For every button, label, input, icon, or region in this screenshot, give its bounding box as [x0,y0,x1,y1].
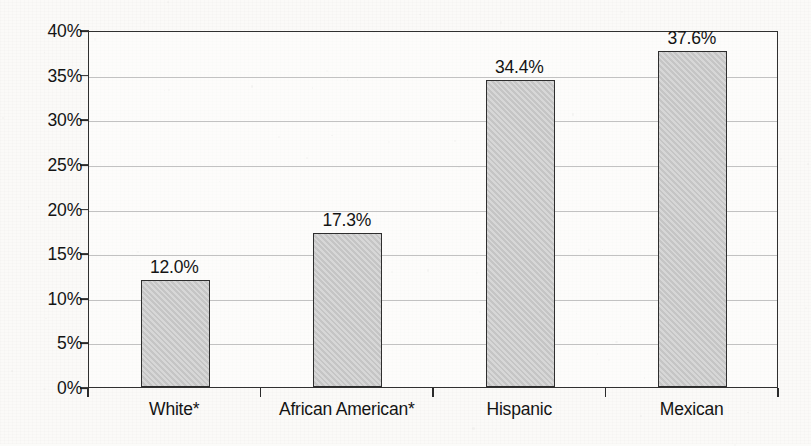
scan-speckle [167,1,169,3]
y-axis-tick-label: 35% [22,65,82,86]
scan-speckle [807,163,809,165]
scan-speckle [747,412,749,414]
x-axis-category-label: Hispanic [486,399,552,420]
x-axis-category-label: White* [149,399,199,420]
scan-speckle [780,158,782,160]
scan-speckle [640,415,642,417]
bar-value-label: 37.6% [667,28,716,49]
bar [658,51,727,387]
scan-speckle [621,11,623,13]
x-axis-category-label: Mexican [660,399,724,420]
bar [313,233,382,387]
bar-value-label: 12.0% [150,257,199,278]
bar-value-label: 34.4% [495,57,544,78]
y-axis-tick-label: 5% [22,333,82,354]
scan-speckle [0,179,1,180]
x-axis-tick-mark [87,388,89,397]
y-axis-tick-label: 15% [22,244,82,265]
scan-speckle [726,441,728,443]
scan-speckle [44,52,45,53]
y-axis-tick-label: 20% [22,199,82,220]
x-axis-tick-mark [260,388,262,397]
scan-speckle [45,318,47,320]
scan-speckle [472,427,474,429]
y-axis-tick-label: 0% [22,378,82,399]
scan-speckle [82,313,83,314]
scan-speckle [495,429,496,430]
scan-speckle [11,370,13,372]
scan-speckle [479,13,480,14]
scan-speckle [419,14,420,15]
scan-speckle [805,307,807,309]
scan-speckle [26,101,27,102]
y-axis-tick-label: 25% [22,154,82,175]
y-axis-tick-label: 10% [22,288,82,309]
scan-speckle [143,21,145,23]
bar-value-label: 17.3% [322,210,371,231]
x-axis-tick-mark [605,388,607,397]
scan-speckle [2,117,4,119]
x-axis-category-label: African American* [279,399,415,420]
x-axis-tick-mark [432,388,434,397]
bar [486,80,555,387]
y-axis-tick-label: 40% [22,21,82,42]
x-axis-tick-mark [777,388,779,397]
scan-speckle [305,6,306,7]
plot-area [88,31,778,388]
y-axis-tick-label: 30% [22,110,82,131]
bar [141,280,210,387]
scan-speckle [500,21,502,23]
